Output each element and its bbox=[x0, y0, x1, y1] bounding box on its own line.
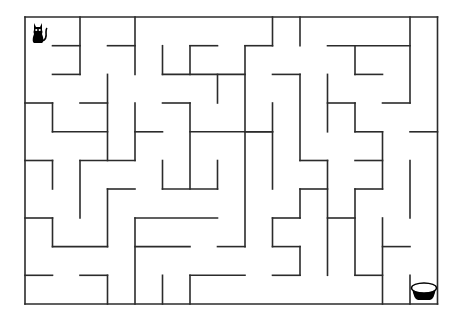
maze-board bbox=[0, 0, 462, 322]
maze-walls bbox=[25, 17, 438, 304]
cat-icon bbox=[33, 23, 47, 43]
bowl-icon bbox=[412, 283, 437, 300]
